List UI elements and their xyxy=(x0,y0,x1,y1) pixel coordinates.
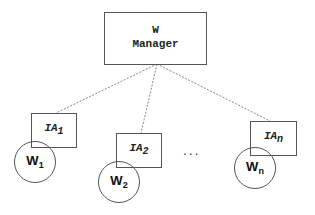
connector-manager-ia1 xyxy=(56,64,157,113)
agent-label-1: IA1 xyxy=(32,122,76,137)
worker-label-1: W1 xyxy=(15,153,55,170)
manager-label: W Manager xyxy=(105,23,206,51)
connector-manager-ia2 xyxy=(141,64,157,133)
connector-manager-ian xyxy=(157,64,270,121)
worker-circle-2: W2 xyxy=(98,161,140,203)
worker-label-2: W2 xyxy=(99,173,139,190)
worker-label-n: Wn xyxy=(235,159,275,176)
worker-circle-n: Wn xyxy=(234,147,276,189)
manager-box: W Manager xyxy=(104,12,207,65)
agent-label-2: IA2 xyxy=(117,142,161,157)
agent-label-n: IAn xyxy=(251,130,296,145)
worker-circle-1: W1 xyxy=(14,141,56,183)
manager-label-line1: W xyxy=(105,23,206,37)
ellipsis: ... xyxy=(183,144,200,158)
manager-label-line2: Manager xyxy=(105,37,206,51)
